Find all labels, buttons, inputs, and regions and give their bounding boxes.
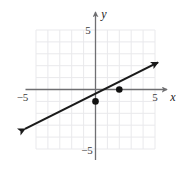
plot-point	[92, 98, 99, 105]
x-axis-negative-tick-label: −5	[17, 91, 29, 103]
plotted-line	[25, 62, 158, 128]
axis-lines	[26, 12, 168, 160]
y-axis-positive-tick-label: 5	[85, 24, 91, 36]
x-axis-positive-tick-label: 5	[152, 91, 158, 103]
graph-canvas: −5 5 5 −5 y x	[0, 0, 181, 172]
y-axis-label: y	[100, 7, 107, 21]
coordinate-plane-figure: −5 5 5 −5 y x	[0, 0, 181, 172]
x-axis-label: x	[169, 90, 176, 104]
plot-point	[116, 86, 123, 93]
y-axis-negative-tick-label: −5	[81, 144, 93, 156]
